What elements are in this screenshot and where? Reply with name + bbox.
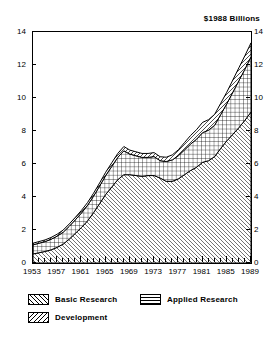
stacked-area-plot: [33, 32, 251, 263]
y-tick-mark: [246, 196, 250, 197]
y-tick-label-left: 8: [4, 126, 26, 135]
y-tick-label-right: 4: [254, 192, 276, 201]
x-tick-mark: [189, 258, 190, 262]
y-tick-label-right: 2: [254, 225, 276, 234]
x-tick-mark: [220, 258, 221, 262]
x-tick-mark: [214, 258, 215, 262]
x-tick-mark: [238, 258, 239, 262]
x-tick-mark: [129, 256, 130, 262]
x-tick-mark: [56, 256, 57, 262]
y-tick-mark: [32, 97, 36, 98]
legend-label-applied-research: Applied Research: [167, 295, 238, 304]
x-tick-mark: [99, 258, 100, 262]
x-tick-mark: [68, 258, 69, 262]
legend-label-basic-research: Basic Research: [55, 295, 117, 304]
x-tick-mark: [250, 256, 251, 262]
legend-item-applied-research[interactable]: Applied Research: [140, 294, 238, 305]
legend-item-development[interactable]: Development: [28, 312, 107, 323]
x-tick-mark: [244, 258, 245, 262]
x-tick-mark: [208, 258, 209, 262]
x-tick-mark: [135, 258, 136, 262]
chart-title: $1988 Billions: [150, 14, 260, 23]
x-tick-mark: [32, 256, 33, 262]
x-tick-mark: [74, 258, 75, 262]
y-tick-mark: [32, 31, 36, 32]
chart-legend: Basic Research Applied Research Developm…: [28, 294, 268, 330]
x-tick-mark: [165, 258, 166, 262]
y-tick-mark: [32, 163, 36, 164]
y-tick-label-right: 12: [254, 60, 276, 69]
x-tick-mark: [62, 258, 63, 262]
x-tick-mark: [105, 256, 106, 262]
y-tick-mark: [32, 130, 36, 131]
legend-label-development: Development: [55, 313, 107, 322]
slash-swatch: [28, 294, 49, 305]
x-tick-mark: [232, 258, 233, 262]
y-tick-mark: [246, 64, 250, 65]
x-tick-mark: [44, 258, 45, 262]
y-tick-label-left: 10: [4, 93, 26, 102]
y-tick-label-right: 8: [254, 126, 276, 135]
x-tick-mark: [202, 256, 203, 262]
y-tick-mark: [246, 163, 250, 164]
y-tick-label-left: 14: [4, 27, 26, 36]
x-tick-mark: [153, 256, 154, 262]
y-tick-mark: [32, 196, 36, 197]
x-tick-mark: [123, 258, 124, 262]
plot-area: [32, 31, 252, 264]
y-tick-label-left: 0: [4, 258, 26, 267]
y-tick-label-left: 12: [4, 60, 26, 69]
x-tick-mark: [117, 258, 118, 262]
x-tick-mark: [50, 258, 51, 262]
x-tick-mark: [159, 258, 160, 262]
y-tick-mark: [246, 31, 250, 32]
x-tick-mark: [93, 258, 94, 262]
y-tick-label-right: 10: [254, 93, 276, 102]
y-tick-mark: [246, 262, 250, 263]
x-tick-mark: [177, 256, 178, 262]
x-tick-label: 1989: [235, 267, 265, 276]
x-tick-mark: [38, 258, 39, 262]
y-tick-label-right: 0: [254, 258, 276, 267]
x-tick-mark: [87, 258, 88, 262]
y-tick-label-left: 2: [4, 225, 26, 234]
y-tick-mark: [246, 229, 250, 230]
x-tick-mark: [196, 258, 197, 262]
backslash-swatch: [28, 312, 49, 323]
y-tick-mark: [246, 130, 250, 131]
x-tick-mark: [111, 258, 112, 262]
x-tick-mark: [171, 258, 172, 262]
y-tick-mark: [32, 262, 36, 263]
y-tick-label-left: 6: [4, 159, 26, 168]
legend-item-basic-research[interactable]: Basic Research: [28, 294, 117, 305]
y-tick-mark: [32, 229, 36, 230]
x-tick-mark: [226, 256, 227, 262]
x-tick-mark: [141, 258, 142, 262]
chart-container: $1988 Billions: [0, 0, 276, 339]
y-tick-mark: [246, 97, 250, 98]
y-tick-label-left: 4: [4, 192, 26, 201]
cross-swatch: [140, 294, 161, 305]
y-tick-label-right: 14: [254, 27, 276, 36]
y-tick-mark: [32, 64, 36, 65]
x-tick-mark: [80, 256, 81, 262]
y-tick-label-right: 6: [254, 159, 276, 168]
x-tick-mark: [183, 258, 184, 262]
x-tick-mark: [147, 258, 148, 262]
